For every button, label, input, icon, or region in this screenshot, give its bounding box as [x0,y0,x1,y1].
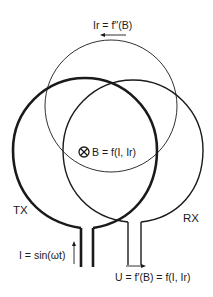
field-label: B = f(I, Ir) [92,146,136,158]
tx-current-arrow-icon [72,241,76,264]
rx-voltage-arrow-icon [126,264,146,268]
rx-voltage-label: U = f′(B) = f(I, Ir) [115,271,190,283]
field-into-page-icon [79,147,89,157]
tx-current-label: I = sin(ωt) [19,249,65,261]
rx-label: RX [183,212,199,224]
eddy-current-arrow-icon [100,33,126,37]
eddy-current-label: Ir = f′′(B) [93,19,132,31]
coil-diagram: Ir = f′′(B) B = f(I, Ir) TX RX I = sin(ω… [0,0,213,297]
tx-label: TX [13,204,28,216]
